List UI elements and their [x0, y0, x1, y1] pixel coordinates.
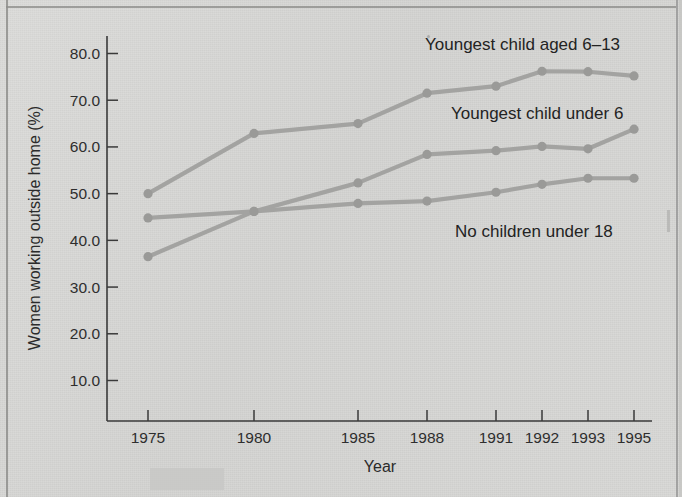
data-point — [629, 174, 638, 183]
data-point — [249, 129, 258, 138]
data-point — [143, 189, 152, 198]
data-point — [583, 67, 592, 76]
data-point — [353, 178, 362, 187]
data-point — [143, 252, 152, 261]
series-line — [148, 71, 634, 193]
data-point — [629, 125, 638, 134]
y-axis-title: Women working outside home (%) — [26, 106, 43, 350]
x-axis-tick-label: 1991 — [479, 429, 513, 446]
line-chart: 10.020.030.040.050.060.070.080.0 1975198… — [0, 0, 682, 497]
x-axis-tick-label: 1988 — [410, 429, 444, 446]
data-point — [537, 180, 546, 189]
y-axis-tick-label: 60.0 — [70, 138, 101, 155]
series-3 — [143, 174, 638, 223]
x-axis-tick-labels: 19751980198519881991199219931995 — [131, 429, 651, 446]
data-point — [537, 142, 546, 151]
data-point — [491, 146, 500, 155]
x-axis-title: Year — [364, 458, 397, 475]
y-axis-tick-label: 80.0 — [70, 45, 101, 62]
data-point — [537, 67, 546, 76]
data-point — [491, 82, 500, 91]
y-axis-tick-label: 50.0 — [70, 185, 101, 202]
data-point — [422, 150, 431, 159]
x-axis-tick-label: 1995 — [617, 429, 651, 446]
data-point — [143, 213, 152, 222]
x-axis-tick-label: 1980 — [237, 429, 272, 446]
data-point — [583, 144, 592, 153]
data-point — [583, 174, 592, 183]
series-label-3: No children under 18 — [455, 222, 613, 241]
x-axis-tick-label: 1992 — [525, 429, 559, 446]
y-axis-tick-label: 30.0 — [70, 279, 101, 296]
data-point — [249, 207, 258, 216]
series-annotations: Youngest child aged 6–13Youngest child u… — [425, 35, 623, 241]
series-1 — [143, 67, 638, 199]
data-point — [491, 188, 500, 197]
x-axis-tick-label: 1985 — [341, 429, 375, 446]
data-point — [422, 197, 431, 206]
y-axis-ticks — [107, 54, 118, 381]
data-point — [353, 119, 362, 128]
series-line — [148, 178, 634, 218]
y-axis-tick-labels: 10.020.030.040.050.060.070.080.0 — [70, 45, 101, 389]
data-point — [353, 199, 362, 208]
y-axis-tick-label: 40.0 — [70, 232, 101, 249]
x-axis-tick-label: 1993 — [571, 429, 605, 446]
y-axis-tick-label: 20.0 — [70, 325, 101, 342]
x-axis-ticks — [148, 410, 634, 421]
y-axis-tick-label: 70.0 — [70, 92, 101, 109]
series-label-1: Youngest child aged 6–13 — [425, 35, 620, 54]
y-axis-tick-label: 10.0 — [70, 372, 101, 389]
series-label-2: Youngest child under 6 — [451, 104, 623, 123]
data-point — [422, 89, 431, 98]
x-axis-tick-label: 1975 — [131, 429, 165, 446]
data-point — [629, 71, 638, 80]
